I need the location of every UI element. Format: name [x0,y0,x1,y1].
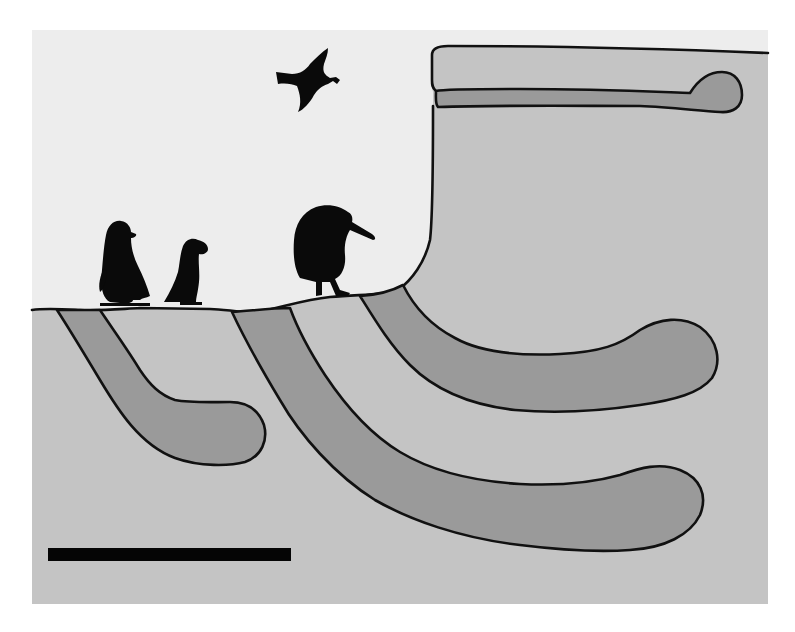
burrow-diagram: Cross-section of bird burrows: penguin, … [0,0,795,632]
scale-bar [48,548,291,561]
